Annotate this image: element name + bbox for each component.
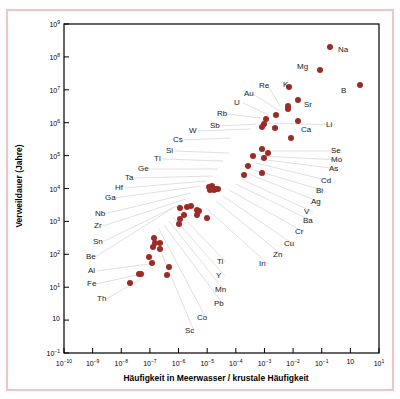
element-label-hf: Hf — [115, 183, 123, 192]
element-label-co: Co — [197, 313, 207, 322]
element-label-cs: Cs — [173, 135, 183, 144]
x-tick-label: 10−6 — [172, 358, 186, 367]
x-tick-label: 10−1 — [315, 358, 329, 367]
element-label-re: Re — [259, 81, 269, 90]
element-label-fe: Fe — [87, 279, 96, 288]
y-tick-label: 107 — [38, 85, 60, 94]
leader-line — [106, 279, 141, 299]
element-label-mn: Mn — [215, 285, 226, 294]
data-point — [164, 272, 170, 278]
element-label-w: W — [189, 126, 197, 135]
element-label-bi: Bi — [316, 186, 323, 195]
element-label-th: Th — [97, 294, 106, 303]
element-label-ba: Ba — [303, 216, 313, 225]
data-point — [204, 215, 210, 221]
element-label-cu: Cu — [284, 239, 294, 248]
scatter-chart: Verweildauer (Jahre) Häufigkeit in Meerw… — [1, 1, 400, 399]
element-label-in: In — [259, 259, 266, 268]
element-label-ga: Ga — [105, 193, 116, 202]
data-point — [184, 204, 190, 210]
x-tick-label: 10−9 — [86, 358, 100, 367]
data-point — [285, 106, 291, 112]
x-tick-label: 10−8 — [115, 358, 129, 367]
element-label-li: Li — [326, 120, 332, 129]
x-tick-label: 10 — [346, 358, 354, 365]
element-label-ta: Ta — [125, 173, 133, 182]
element-label-si: Si — [166, 146, 173, 155]
x-axis-title: Häufigkeit in Meerwasser / krustale Häuf… — [41, 373, 391, 383]
leader-line — [246, 173, 320, 202]
leader-line — [104, 193, 191, 214]
element-label-cr: Cr — [295, 227, 303, 236]
element-label-sn: Sn — [93, 237, 103, 246]
leader-line — [163, 159, 223, 161]
leader-line — [243, 103, 269, 115]
data-point — [295, 97, 301, 103]
leader-line — [268, 86, 280, 106]
element-label-al: Al — [88, 266, 95, 275]
element-label-mo: Mo — [331, 155, 342, 164]
element-label-nb: Nb — [95, 209, 105, 218]
element-label-sc: Sc — [185, 326, 194, 335]
element-label-v: V — [304, 207, 309, 216]
y-tick-label: 101 — [38, 282, 60, 291]
data-point — [259, 170, 265, 176]
x-tick-label: 10−4 — [229, 358, 243, 367]
element-label-rb: Rb — [217, 109, 227, 118]
element-label-zr: Zr — [94, 221, 102, 230]
data-point — [245, 163, 251, 169]
element-label-na: Na — [338, 45, 348, 54]
element-label-u: U — [234, 98, 240, 107]
element-label-cd: Cd — [321, 176, 331, 185]
element-label-k: K — [283, 80, 288, 89]
x-tick-label: 10−5 — [200, 358, 214, 367]
element-label-y: Y — [216, 271, 221, 280]
element-label-mg: Mg — [297, 62, 308, 71]
element-label-ti: Ti — [217, 257, 223, 266]
element-label-be: Be — [86, 252, 96, 261]
y-tick-label: 10 — [38, 315, 60, 322]
data-point — [259, 146, 265, 152]
y-tick-label: 109 — [38, 19, 60, 28]
leader-line — [198, 129, 251, 131]
y-tick-label: 102 — [38, 249, 60, 258]
plot-svg — [1, 1, 400, 399]
leader-line — [182, 138, 231, 140]
data-point — [288, 135, 294, 141]
data-point — [176, 221, 182, 227]
leader-line — [256, 163, 330, 181]
x-tick-label: 10−7 — [143, 358, 157, 367]
leader-line — [259, 159, 338, 169]
element-label-ag: Ag — [311, 197, 321, 206]
leader-line — [226, 114, 261, 118]
x-tick-label: 10−2 — [286, 358, 300, 367]
data-point — [149, 260, 155, 266]
x-tick-label: 10−3 — [258, 358, 272, 367]
element-label-sr: Sr — [304, 100, 312, 109]
data-point — [157, 246, 163, 252]
leader-line — [134, 176, 213, 178]
element-label-ca: Ca — [301, 125, 311, 134]
element-label-sb: Sb — [210, 121, 220, 130]
element-label-b: B — [341, 86, 346, 95]
y-axis-title: Verweildauer (Jahre) — [14, 96, 24, 276]
leader-line — [219, 124, 256, 126]
element-label-se: Se — [331, 146, 341, 155]
element-label-as: As — [329, 164, 338, 173]
leader-line — [102, 204, 181, 242]
data-point — [194, 212, 200, 218]
leader-line — [97, 263, 156, 271]
y-tick-label: 108 — [38, 52, 60, 61]
leader-line — [175, 151, 229, 153]
x-tick-label: 10−10 — [56, 358, 72, 367]
data-point — [215, 186, 221, 192]
y-tick-label: 104 — [38, 184, 60, 193]
data-point — [150, 244, 156, 250]
data-point — [138, 271, 144, 277]
y-tick-label: 106 — [38, 118, 60, 127]
element-label-au: Au — [244, 89, 254, 98]
figure-frame: Verweildauer (Jahre) Häufigkeit in Meerw… — [0, 0, 400, 399]
data-point — [250, 153, 256, 159]
x-tick-label: 101 — [374, 358, 385, 367]
y-tick-label: 105 — [38, 151, 60, 160]
